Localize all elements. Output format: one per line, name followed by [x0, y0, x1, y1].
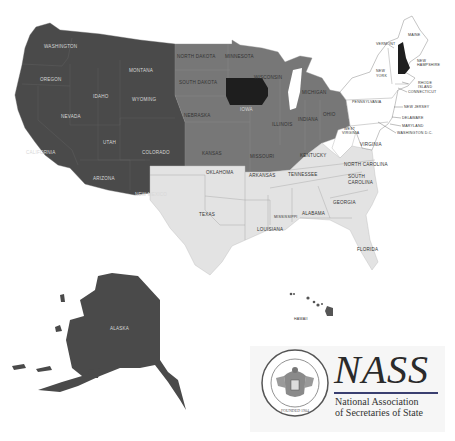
label-connecticut: CONNECTICUT: [408, 90, 437, 94]
label-florida: FLORIDA: [357, 247, 379, 252]
seal-bottom-text: FOUNDED 1904: [281, 408, 309, 413]
label-arizona: ARIZONA: [93, 176, 116, 181]
label-new-york-1: NEW: [376, 69, 385, 73]
label-south-dakota: SOUTH DAKOTA: [179, 80, 218, 85]
label-georgia: GEORGIA: [333, 200, 357, 205]
label-maryland: MARYLAND: [402, 124, 424, 128]
label-colorado: COLORADO: [142, 150, 170, 155]
label-ohio: OHIO: [323, 112, 336, 117]
label-wisconsin: WISCONSIN: [254, 75, 282, 80]
label-mississippi: MISSISSIPPI: [274, 215, 298, 219]
label-texas: TEXAS: [199, 212, 215, 217]
label-oklahoma: OKLAHOMA: [206, 170, 234, 175]
label-missouri: MISSOURI: [250, 154, 274, 159]
label-new-mexico: NEW MEXICO: [135, 192, 167, 197]
label-north-carolina: NORTH CAROLINA: [344, 162, 389, 167]
label-nebraska: NEBRASKA: [184, 113, 211, 118]
label-south-carolina-1: SOUTH: [348, 174, 365, 179]
label-vermont: VERMONT: [376, 42, 396, 46]
label-tennessee: TENNESSEE: [288, 172, 318, 177]
label-washington-dc: WASHINGTON D.C.: [397, 131, 433, 135]
nass-subtitle: National Association of Secretaries of S…: [335, 396, 423, 418]
label-kansas: KANSAS: [202, 151, 222, 156]
label-michigan: MICHIGAN: [302, 90, 327, 95]
label-indiana: INDIANA: [298, 117, 319, 122]
label-illinois: ILLINOIS: [272, 122, 293, 127]
label-iowa: IOWA: [240, 107, 254, 112]
label-utah: UTAH: [103, 140, 116, 145]
label-delaware: DELAWARE: [402, 116, 424, 120]
label-maine: MAINE: [408, 33, 421, 37]
state-iowa: [226, 78, 268, 105]
label-montana: MONTANA: [129, 68, 154, 73]
nass-divider: [334, 392, 438, 394]
label-california: CALIFORNIA: [26, 150, 56, 155]
nass-subtitle-line2: of Secretaries of State: [335, 407, 423, 418]
label-rhode-island-2: ISLAND: [418, 85, 432, 89]
label-washington: WASHINGTON: [44, 44, 77, 49]
label-west-virginia-2: VIRGINIA: [342, 131, 360, 135]
label-nevada: NEVADA: [61, 114, 81, 119]
label-arkansas: ARKANSAS: [249, 173, 276, 178]
label-virginia: VIRGINIA: [360, 142, 383, 147]
nass-title: NASS: [334, 350, 429, 390]
label-idaho: IDAHO: [93, 94, 109, 99]
label-alaska: ALASKA: [110, 326, 130, 331]
label-kentucky: KENTUCKY: [300, 153, 327, 158]
label-oregon: OREGON: [40, 77, 62, 82]
label-hawaii: HAWAII: [294, 317, 308, 321]
state-alaska: [38, 273, 186, 410]
label-minnesota: MINNESOTA: [225, 54, 255, 59]
state-hawaii: [290, 293, 333, 316]
label-south-carolina-2: CAROLINA: [348, 180, 374, 185]
label-louisiana: LOUISIANA: [257, 227, 284, 232]
label-pennsylvania: PENNSYLVANIA: [352, 100, 382, 104]
label-alabama: ALABAMA: [302, 211, 326, 216]
label-wyoming: WYOMING: [132, 97, 157, 102]
nass-logo: FOUNDED 1904 NASS National Association o…: [250, 346, 445, 432]
nass-seal-icon: FOUNDED 1904: [260, 348, 330, 418]
nass-subtitle-line1: National Association: [335, 396, 423, 407]
label-new-york-2: YORK: [376, 74, 387, 78]
label-new-jersey: NEW JERSEY: [404, 105, 430, 109]
label-new-hampshire-2: HAMPSHIRE: [417, 63, 441, 67]
label-north-dakota: NORTH DAKOTA: [177, 54, 216, 59]
